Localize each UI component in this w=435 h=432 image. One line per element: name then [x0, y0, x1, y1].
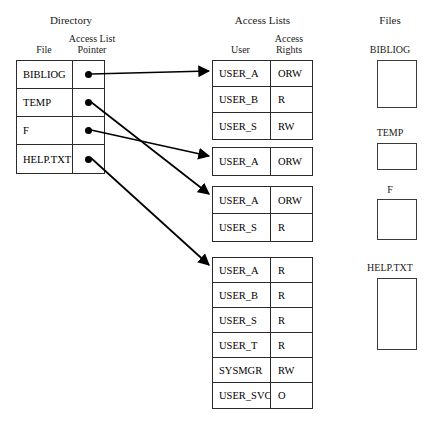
table-row: USER_A ORW: [213, 61, 312, 87]
directory-file-name: HELP.TXT: [17, 145, 72, 173]
arrow-bibliog-to-block1: [91, 71, 209, 74]
access-list-block: USER_A ORW: [212, 147, 313, 176]
bullet-pointer-icon: [85, 127, 92, 134]
access-list-rights: R: [270, 214, 312, 241]
access-lists-header-rights-line2: Rights: [276, 44, 302, 55]
file-label-temp: TEMP: [358, 127, 422, 138]
access-list-block: USER_A ORW USER_B R USER_S RW: [212, 60, 313, 140]
access-list-user: USER_A: [213, 148, 270, 175]
table-row: USER_B R: [213, 87, 312, 113]
access-list-rights: O: [270, 383, 312, 408]
access-list-user: USER_B: [213, 283, 270, 307]
table-row: TEMP: [17, 89, 104, 117]
file-box-f: [377, 199, 417, 240]
access-list-block: USER_A R USER_B R USER_S R USER_T R SYSM…: [212, 257, 313, 409]
directory-pointer-cell[interactable]: [72, 89, 104, 116]
directory-file-name: TEMP: [17, 89, 72, 116]
table-row: USER_A ORW: [213, 148, 312, 175]
table-row: USER_T R: [213, 333, 312, 358]
access-list-user: USER_SVCS: [213, 383, 270, 408]
directory-pointer-cell[interactable]: [72, 117, 104, 144]
access-list-user: USER_A: [213, 187, 270, 213]
arrow-f-to-block2: [91, 130, 209, 156]
access-list-user: USER_A: [213, 61, 270, 86]
access-list-rights: R: [270, 283, 312, 307]
table-row: USER_A ORW: [213, 187, 312, 214]
directory-header-pointer-line1: Access List: [69, 33, 115, 44]
access-list-user: SYSMGR: [213, 358, 270, 382]
access-list-user: USER_S: [213, 113, 270, 139]
access-list-rights: RW: [270, 358, 312, 382]
arrow-helptxt-to-block4: [91, 158, 209, 265]
access-list-rights: RW: [270, 113, 312, 139]
file-box-temp: [377, 143, 417, 170]
table-row: USER_S R: [213, 308, 312, 333]
access-list-user: USER_S: [213, 214, 270, 241]
directory-file-name: BIBLIOG: [17, 61, 72, 88]
directory-table: BIBLIOG TEMP F HELP.TXT: [16, 60, 105, 174]
bullet-pointer-icon: [85, 71, 92, 78]
table-row: USER_S R: [213, 214, 312, 241]
access-lists-title: Access Lists: [212, 14, 313, 26]
access-lists-header-user: User: [212, 44, 269, 55]
access-list-block: USER_A ORW USER_S R: [212, 186, 313, 242]
directory-pointer-cell[interactable]: [72, 145, 104, 173]
table-row: USER_B R: [213, 283, 312, 308]
table-row: USER_A R: [213, 258, 312, 283]
table-row: SYSMGR RW: [213, 358, 312, 383]
access-lists-header-rights-line1: Access: [275, 33, 303, 44]
table-row: USER_SVCS O: [213, 383, 312, 408]
access-list-user: USER_S: [213, 308, 270, 332]
access-list-rights: ORW: [270, 61, 312, 86]
access-list-rights: R: [270, 87, 312, 112]
arrow-temp-to-block3: [91, 102, 209, 194]
access-list-rights: ORW: [270, 187, 312, 213]
access-list-rights: R: [270, 308, 312, 332]
bullet-pointer-icon: [85, 156, 92, 163]
access-list-rights: R: [270, 258, 312, 282]
table-row: HELP.TXT: [17, 145, 104, 173]
file-box-help-txt: [377, 278, 417, 350]
directory-file-name: F: [17, 117, 72, 144]
access-list-rights: ORW: [270, 148, 312, 175]
file-label-bibliog: BIBLIOG: [358, 44, 422, 55]
file-label-f: F: [358, 184, 422, 195]
access-list-user: USER_B: [213, 87, 270, 112]
table-row: USER_S RW: [213, 113, 312, 139]
file-label-help-txt: HELP.TXT: [358, 262, 422, 273]
access-lists-header-rights: Access Rights: [262, 33, 316, 55]
access-list-user: USER_A: [213, 258, 270, 282]
table-row: F: [17, 117, 104, 145]
bullet-pointer-icon: [85, 99, 92, 106]
directory-header-pointer: Access List Pointer: [60, 33, 124, 55]
directory-header-pointer-line2: Pointer: [78, 44, 107, 55]
access-list-user: USER_T: [213, 333, 270, 357]
directory-title: Directory: [16, 14, 126, 26]
access-list-diagram: Directory File Access List Pointer BIBLI…: [0, 0, 435, 432]
table-row: BIBLIOG: [17, 61, 104, 89]
access-list-rights: R: [270, 333, 312, 357]
file-box-bibliog: [377, 60, 417, 108]
files-title: Files: [360, 14, 420, 26]
directory-pointer-cell[interactable]: [72, 61, 104, 88]
